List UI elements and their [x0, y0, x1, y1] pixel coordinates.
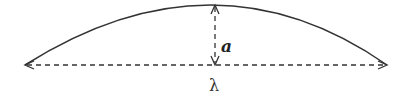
amplitude-label: a	[221, 36, 232, 56]
wave-arc-diagram: a λ	[0, 0, 408, 98]
wavelength-label: λ	[209, 76, 219, 95]
down-arrowhead-icon	[211, 56, 219, 65]
arc-curve	[25, 5, 387, 65]
